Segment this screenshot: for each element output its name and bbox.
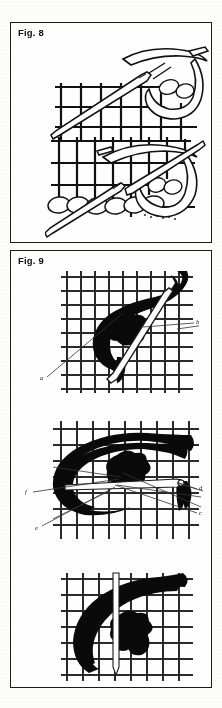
callout-label-d: d xyxy=(199,485,202,492)
figure-frame-fig9: Fig. 9 xyxy=(10,250,212,688)
fig9-panel-1 xyxy=(59,269,199,395)
callout-label-a: a xyxy=(40,375,43,382)
callout-label-c: c xyxy=(199,510,202,517)
fig8-caption: Fig. 8 xyxy=(18,27,44,38)
fig9-panel-3 xyxy=(59,571,199,683)
figure-frame-fig8: Fig. 8 xyxy=(10,22,212,243)
callout-label-e: e xyxy=(35,525,38,532)
fig9-caption: Fig. 9 xyxy=(18,255,44,266)
callout-label-f: f xyxy=(25,489,27,496)
fig9-panel-2 xyxy=(51,419,203,541)
fig8-panel-1 xyxy=(49,45,209,143)
figure-page: Fig. 8 xyxy=(0,0,222,708)
fig8-panel-2 xyxy=(45,133,212,241)
callout-label-b: b xyxy=(196,319,199,326)
